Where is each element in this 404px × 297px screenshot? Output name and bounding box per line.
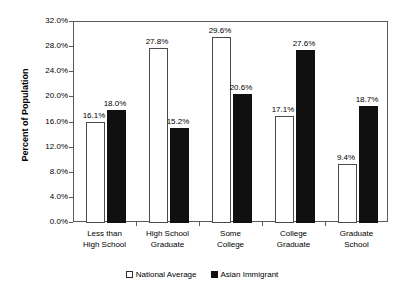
bar-national-average <box>338 164 357 223</box>
filled-square-swatch <box>211 271 218 278</box>
bar-value-label: 18.7% <box>351 95 383 104</box>
bar-value-label: 9.4% <box>330 153 362 162</box>
bar-asian-immigrant <box>107 110 126 223</box>
y-axis-tick-label: 24.0% <box>8 67 68 75</box>
x-axis-category-label-line: Graduate <box>317 228 397 239</box>
bar-chart: Percent of Population 0.0%4.0%8.0%12.0%1… <box>0 0 404 297</box>
bar-value-label: 16.1% <box>78 111 110 120</box>
x-axis-category-label-line: School <box>317 239 397 250</box>
y-axis-tick-label: 8.0% <box>8 168 68 176</box>
bar-asian-immigrant <box>359 106 378 223</box>
chart-legend: National AverageAsian Immigrant <box>0 270 404 279</box>
bar-asian-immigrant <box>296 50 315 223</box>
hollow-square-swatch <box>126 271 133 278</box>
legend-entry-asian-immigrant: Asian Immigrant <box>211 270 279 279</box>
legend-label: National Average <box>136 270 197 279</box>
y-axis-tick-label: 0.0% <box>8 218 68 226</box>
bar-value-label: 27.8% <box>141 37 173 46</box>
x-axis-tick-mark <box>199 222 200 226</box>
bar-national-average <box>149 48 168 223</box>
bar-value-label: 18.0% <box>99 99 131 108</box>
y-axis-tick-label: 12.0% <box>8 143 68 151</box>
bar-value-label: 15.2% <box>162 117 194 126</box>
y-axis-tick-label: 28.0% <box>8 42 68 50</box>
bar-value-label: 17.1% <box>267 105 299 114</box>
legend-label: Asian Immigrant <box>221 270 279 279</box>
bar-value-label: 29.6% <box>204 26 236 35</box>
bar-asian-immigrant <box>233 94 252 223</box>
y-axis-tick-label: 32.0% <box>8 17 68 25</box>
x-axis-tick-mark <box>325 222 326 226</box>
y-axis-tick-label: 16.0% <box>8 118 68 126</box>
y-axis-title: Percent of Population <box>20 45 30 185</box>
bar-national-average <box>86 122 105 223</box>
bar-national-average <box>275 116 294 223</box>
x-axis-category-label: GraduateSchool <box>317 228 397 250</box>
y-axis-tick-mark <box>69 222 73 223</box>
x-axis-tick-mark <box>136 222 137 226</box>
plot-area <box>73 21 388 222</box>
y-axis-tick-label: 4.0% <box>8 193 68 201</box>
y-axis-tick-label: 20.0% <box>8 92 68 100</box>
bar-national-average <box>212 37 231 223</box>
bar-asian-immigrant <box>170 128 189 223</box>
legend-entry-national-average: National Average <box>126 270 197 279</box>
bar-value-label: 27.6% <box>288 39 320 48</box>
x-axis-tick-mark <box>262 222 263 226</box>
bar-value-label: 20.6% <box>225 83 257 92</box>
